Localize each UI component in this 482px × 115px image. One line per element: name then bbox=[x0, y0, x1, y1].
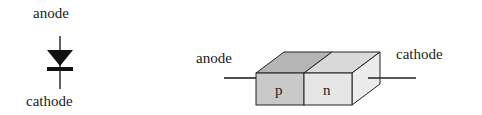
n-region-label: n bbox=[323, 83, 331, 98]
block-cathode-label: cathode bbox=[396, 47, 443, 62]
p-region-label: p bbox=[275, 83, 283, 98]
pn-junction-block bbox=[224, 52, 416, 105]
diode-symbol-icon bbox=[47, 36, 73, 89]
block-anode-label: anode bbox=[196, 51, 232, 66]
